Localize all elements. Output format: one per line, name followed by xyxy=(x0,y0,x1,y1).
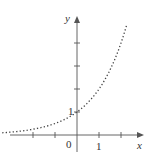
origin-label: 0 xyxy=(66,139,72,150)
axes xyxy=(10,16,144,152)
exponential-curve xyxy=(2,26,126,133)
y-axis-arrow-icon xyxy=(74,16,80,23)
y-axis-label: y xyxy=(65,13,70,24)
x-axis-label: x xyxy=(137,140,142,151)
x-tick-label-1: 1 xyxy=(96,141,102,152)
chart-plot xyxy=(0,0,152,167)
x-axis-arrow-icon xyxy=(137,132,144,138)
y-tick-label-1: 1 xyxy=(68,106,74,117)
